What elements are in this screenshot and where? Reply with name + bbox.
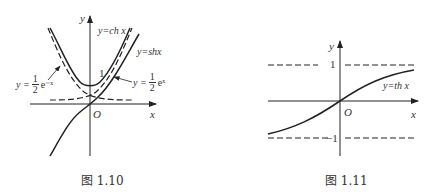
half-exp-pos-label: y = 12 eˣ: [133, 72, 165, 93]
arrow-half-exp-pos: [114, 77, 132, 82]
fig11-x-axis-label: x: [411, 108, 416, 120]
tanh-label: y=th x: [383, 80, 409, 91]
fig11-origin-label: O: [344, 106, 352, 118]
fig10-caption: 图 1.10: [81, 171, 124, 188]
fig10-tick-one: 1: [99, 67, 105, 79]
fraction: 12: [32, 74, 39, 95]
figures-canvas: [0, 0, 429, 196]
lhs: y =: [16, 79, 30, 90]
denominator: 2: [33, 85, 38, 95]
sinh-label: y=shx: [137, 46, 162, 57]
half-exp-pos-curve: [50, 28, 132, 100]
cosh-label: y=ch x: [98, 25, 126, 36]
fig10-y-axis-label: y: [80, 12, 85, 24]
half-exp-neg-label: y = 12 e⁻ˣ: [16, 74, 53, 95]
fig10-x-axis-label: x: [150, 108, 155, 120]
figure-1-11-plot: [268, 41, 418, 156]
fig11-y-axis-label: y: [329, 40, 334, 52]
lhs: y =: [133, 77, 147, 88]
rhs: e⁻ˣ: [41, 79, 53, 90]
fig11-caption: 图 1.11: [325, 171, 368, 188]
fig11-tick-neg-one: −1: [326, 132, 338, 144]
denominator: 2: [150, 83, 155, 93]
rhs: eˣ: [158, 77, 165, 88]
fraction: 12: [149, 72, 156, 93]
fig10-origin-label: O: [93, 108, 101, 120]
sinh-curve: [50, 34, 139, 156]
fig11-tick-pos-one: 1: [330, 58, 336, 70]
